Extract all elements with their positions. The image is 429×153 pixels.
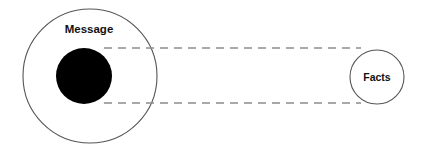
message-label: Message: [65, 23, 114, 35]
diagram-canvas: Message Facts: [0, 0, 429, 153]
message-filled-circle: [56, 48, 112, 104]
diagram-svg: Message Facts: [0, 0, 429, 153]
facts-label: Facts: [363, 71, 391, 83]
